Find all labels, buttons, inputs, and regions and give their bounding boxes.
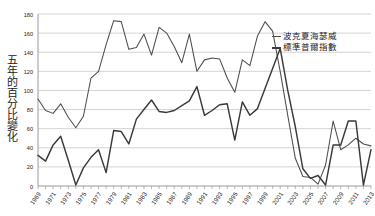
legend-swatch-berkshire <box>272 36 281 37</box>
x-axis-tick-label: 1983 <box>134 190 148 206</box>
x-axis-tick-label: 1979 <box>104 190 118 206</box>
x-axis-tick-label: 1973 <box>59 190 73 206</box>
y-axis-tick-label: 140 <box>24 50 33 56</box>
series-line-sp500 <box>38 48 371 185</box>
y-axis-tick-label: 20 <box>27 164 33 170</box>
x-axis-tick-label: 1977 <box>89 190 103 206</box>
x-axis-tick-label: 1995 <box>225 190 239 206</box>
chart-container: 五年的百分比變化 0204060801001201401601801969197… <box>0 0 375 216</box>
legend-item-sp500: 標準普爾指數 <box>272 42 337 53</box>
y-axis-tick-label: 0 <box>30 184 33 190</box>
x-axis-tick-label: 1993 <box>210 190 224 206</box>
legend-item-berkshire: 波克夏海瑟威 <box>272 31 337 42</box>
x-axis-tick-label: 1991 <box>195 190 209 206</box>
x-axis-tick-label: 2007 <box>316 190 330 206</box>
x-axis-tick-label: 2013 <box>361 190 375 206</box>
x-axis-tick-label: 1997 <box>240 190 254 206</box>
x-axis-tick-label: 1969 <box>28 190 42 206</box>
y-axis-tick-label: 160 <box>24 31 33 37</box>
x-axis-tick-label: 2001 <box>271 190 285 206</box>
x-axis-tick-label: 2005 <box>301 190 315 206</box>
y-axis-tick-label: 120 <box>24 69 33 75</box>
x-axis-tick-label: 1989 <box>180 190 194 206</box>
y-axis-tick-label: 100 <box>24 88 33 94</box>
y-axis-tick-label: 80 <box>27 107 33 113</box>
y-axis-tick-label: 40 <box>27 145 33 151</box>
x-axis-tick-label: 1981 <box>119 190 133 206</box>
legend-label-sp500: 標準普爾指數 <box>283 42 337 53</box>
y-axis-tick-label: 60 <box>27 126 33 132</box>
x-axis-tick-label: 2011 <box>347 190 361 205</box>
x-axis-tick-label: 1971 <box>44 190 58 206</box>
x-axis-tick-label: 2003 <box>286 190 300 206</box>
chart-legend: 波克夏海瑟威 標準普爾指數 <box>272 31 337 53</box>
legend-label-berkshire: 波克夏海瑟威 <box>283 31 337 42</box>
legend-swatch-sp500 <box>272 47 281 49</box>
x-axis-tick-label: 1975 <box>74 190 88 206</box>
y-axis-tick-label: 180 <box>24 12 33 18</box>
x-axis-tick-label: 1985 <box>149 190 163 206</box>
x-axis-tick-label: 1987 <box>165 190 179 206</box>
x-axis-tick-label: 2009 <box>331 190 345 206</box>
x-axis-tick-label: 1999 <box>255 190 269 206</box>
